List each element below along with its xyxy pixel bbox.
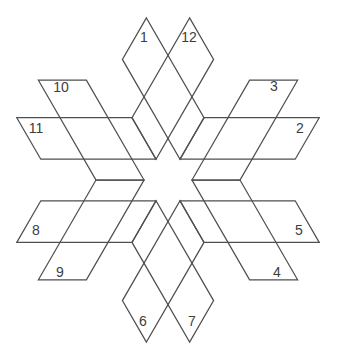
shape-label-2: 2 bbox=[296, 120, 304, 136]
shape-label-10: 10 bbox=[53, 79, 69, 95]
shape-label-7: 7 bbox=[188, 313, 196, 329]
page-background: 123456789101112 bbox=[0, 0, 337, 357]
star-diagram: 123456789101112 bbox=[0, 0, 337, 357]
shape-label-12: 12 bbox=[181, 29, 197, 45]
shape-label-3: 3 bbox=[270, 78, 278, 94]
shape-label-6: 6 bbox=[139, 313, 147, 329]
shape-label-11: 11 bbox=[29, 120, 44, 136]
shape-label-9: 9 bbox=[56, 264, 64, 280]
shape-label-4: 4 bbox=[273, 264, 281, 280]
shape-label-8: 8 bbox=[32, 222, 40, 238]
shape-label-1: 1 bbox=[140, 29, 148, 45]
shape-label-5: 5 bbox=[295, 222, 303, 238]
